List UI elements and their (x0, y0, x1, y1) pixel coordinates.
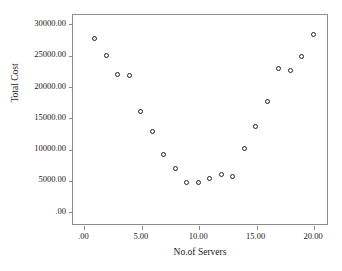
document-header-text (6, 0, 206, 9)
y-axis-tick-label: 5000.00 (2, 175, 66, 184)
data-point (184, 180, 189, 185)
data-point (196, 180, 201, 185)
y-axis-tick-label: 30000.00 (2, 19, 66, 28)
plot-area (72, 14, 328, 225)
x-axis-tick-labels: .005.0010.0015.0020.00 (72, 231, 328, 243)
y-axis-title-label: Total Cost (8, 48, 22, 118)
scatter-chart: .005000.0010000.0015000.0020000.0025000.… (0, 0, 342, 271)
data-point (92, 36, 97, 41)
data-point (276, 66, 281, 71)
data-point (219, 172, 224, 177)
data-point (150, 129, 155, 134)
y-axis-tick-label: 10000.00 (2, 144, 66, 153)
data-point (253, 124, 258, 129)
data-point (207, 176, 212, 181)
x-axis-title: No.of Servers (72, 246, 328, 258)
x-axis-tick-label: 10.00 (168, 231, 228, 241)
x-axis-tick-label: 15.00 (226, 231, 286, 241)
x-axis-tick-label: 20.00 (283, 231, 342, 241)
data-point (230, 174, 235, 179)
data-point (127, 73, 132, 78)
data-point (265, 99, 270, 104)
data-point (242, 146, 247, 151)
x-axis-tick-label: 5.00 (111, 231, 171, 241)
x-axis-tick (257, 226, 258, 230)
data-point (138, 109, 143, 114)
data-point (104, 53, 109, 58)
y-axis-tick-labels: .005000.0010000.0015000.0020000.0025000.… (0, 14, 66, 225)
data-point (173, 166, 178, 171)
data-point (311, 32, 316, 37)
x-axis-tick (84, 226, 85, 230)
y-axis-tick-label: .00 (2, 207, 66, 216)
x-axis-tick (314, 226, 315, 230)
x-axis-tick (142, 226, 143, 230)
data-point (161, 152, 166, 157)
x-axis-tick-label: .00 (53, 231, 113, 241)
data-point (299, 54, 304, 59)
data-point (288, 68, 293, 73)
data-point (115, 72, 120, 77)
x-axis-tick (199, 226, 200, 230)
